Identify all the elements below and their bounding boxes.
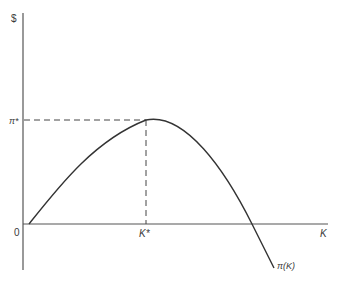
profit-curve — [29, 119, 274, 268]
k-star-label: K* — [139, 228, 151, 239]
y-axis-label: $ — [11, 13, 17, 24]
profit-diagram: $ 0 K π* K* π(K) — [0, 0, 339, 281]
x-axis-label: K — [320, 228, 328, 239]
origin-label: 0 — [14, 227, 20, 238]
curve-label: π(K) — [277, 261, 295, 271]
pi-star-label: π* — [9, 116, 19, 126]
